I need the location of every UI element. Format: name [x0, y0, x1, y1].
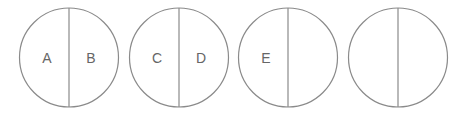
left-half-label: E: [261, 50, 270, 66]
divided-circle: CD: [130, 8, 229, 107]
divided-circle: E: [239, 8, 338, 107]
left-half-label: A: [42, 50, 52, 66]
divided-circle: [349, 8, 448, 107]
right-half-label: D: [196, 50, 206, 66]
circle-diagram: ABCDE: [0, 0, 465, 113]
divided-circle: AB: [20, 8, 119, 107]
left-half-label: C: [152, 50, 162, 66]
right-half-label: B: [86, 50, 95, 66]
